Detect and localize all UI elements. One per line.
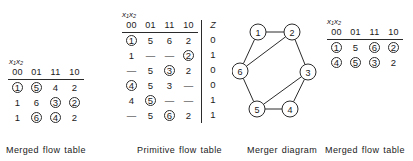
stable-state-cell: 4 <box>327 55 346 70</box>
table-row: 453— <box>122 78 198 93</box>
table-row: 1632 <box>8 95 84 110</box>
state-cell: — <box>179 78 198 93</box>
merger-nodes: 123456 <box>232 24 316 117</box>
column-header: 00 <box>8 67 27 78</box>
state-cell: 6 <box>27 95 46 110</box>
caption-primitive-flow-table: Primitive flow table <box>137 145 222 156</box>
merger-node-label-1: 1 <box>255 28 260 38</box>
stable-state-cell: 1 <box>8 80 27 95</box>
state-cell: 5 <box>141 33 160 48</box>
state-cell: 1 <box>8 110 27 125</box>
merger-edge-5-6 <box>243 78 253 101</box>
state-cell: 4 <box>46 80 65 95</box>
merger-edge-3-4 <box>293 79 304 102</box>
column-header: 11 <box>365 27 384 38</box>
state-cell: 2 <box>179 33 198 48</box>
state-cell: — <box>122 108 141 123</box>
state-cell: 2 <box>179 108 198 123</box>
table-row: 1562 <box>327 40 403 55</box>
merger-node-label-5: 5 <box>254 105 259 115</box>
output-value: 0 <box>207 62 219 77</box>
output-value: 1 <box>207 47 219 62</box>
state-cell: — <box>141 48 160 63</box>
column-header-row: 00011110 <box>8 67 84 80</box>
caption-merged-flow-table-left: Merged flow table <box>6 145 86 156</box>
column-header: 11 <box>46 67 65 78</box>
table-body: 15621——2—532453—45———562 <box>122 33 198 123</box>
table-row: —562 <box>122 108 198 123</box>
stable-state-cell: 5 <box>27 80 46 95</box>
state-cell: 2 <box>65 80 84 95</box>
stable-state-cell: 2 <box>179 48 198 63</box>
table-row: —532 <box>122 63 198 78</box>
caption-merged-flow-table-right: Merged flow table <box>325 145 405 156</box>
merged-flow-table-right: x₁x₂ 00011110 15624532 <box>327 17 403 70</box>
state-cell: 6 <box>160 33 179 48</box>
merger-edge-2-6 <box>246 37 285 66</box>
table-row: 45—— <box>122 93 198 108</box>
column-header: 10 <box>384 27 403 38</box>
state-cell: 4 <box>122 93 141 108</box>
stable-state-cell: 6 <box>365 40 384 55</box>
merger-edge-3-5 <box>263 77 301 105</box>
state-cell: 5 <box>141 108 160 123</box>
table-row: 4532 <box>327 55 403 70</box>
output-value: 1 <box>207 107 219 122</box>
stable-state-cell: 1 <box>327 40 346 55</box>
state-cell: 2 <box>384 55 403 70</box>
merger-graph-svg: 123456 <box>232 18 322 124</box>
stable-state-cell: 5 <box>346 55 365 70</box>
merged-flow-table-left: x₁x₂ 00011110 154216321642 <box>8 57 84 125</box>
stable-state-cell: 6 <box>27 110 46 125</box>
output-values: 010011 <box>207 32 219 122</box>
column-header: 11 <box>160 20 179 31</box>
column-header: 10 <box>179 20 198 31</box>
input-variable-label: x₁x₂ <box>327 17 403 26</box>
column-header: 00 <box>327 27 346 38</box>
input-variable-label: x₁x₂ <box>122 10 219 19</box>
table-row: 1542 <box>8 80 84 95</box>
column-header: 01 <box>346 27 365 38</box>
merger-edge-1-6 <box>243 39 254 63</box>
state-cell: 2 <box>179 63 198 78</box>
column-header: 01 <box>141 20 160 31</box>
stable-state-cell: 3 <box>160 63 179 78</box>
column-header-row: 00011110 <box>122 20 198 33</box>
state-cell: — <box>160 48 179 63</box>
table-body: 154216321642 <box>8 80 84 125</box>
stable-state-cell: 2 <box>384 40 403 55</box>
stable-state-cell: 4 <box>46 110 65 125</box>
primitive-table-grid: 00011110 15621——2—532453—45———562 <box>122 20 202 123</box>
column-header-row: 00011110 <box>327 27 403 40</box>
stable-state-cell: 6 <box>160 108 179 123</box>
table-row: 1562 <box>122 33 198 48</box>
table-row: 1——2 <box>122 48 198 63</box>
merger-edge-2-3 <box>295 39 305 64</box>
column-header: 01 <box>27 67 46 78</box>
column-header: 10 <box>65 67 84 78</box>
stable-state-cell: 4 <box>122 78 141 93</box>
state-cell: 1 <box>8 95 27 110</box>
state-cell: — <box>122 63 141 78</box>
output-value: 0 <box>207 32 219 47</box>
stable-state-cell: 3 <box>365 55 384 70</box>
merger-node-label-2: 2 <box>289 28 294 38</box>
state-cell: 5 <box>141 78 160 93</box>
stable-state-cell: 2 <box>65 95 84 110</box>
input-variable-label: x₁x₂ <box>9 57 84 66</box>
state-cell: 3 <box>160 78 179 93</box>
column-header: 00 <box>122 20 141 31</box>
table-body: 15624532 <box>327 40 403 70</box>
stable-state-cell: 5 <box>141 93 160 108</box>
stable-state-cell: 1 <box>122 33 141 48</box>
state-cell: — <box>179 93 198 108</box>
primitive-flow-table: x₁x₂ 00011110 15621——2—532453—45———562 Z… <box>122 10 219 123</box>
merger-node-label-6: 6 <box>237 67 242 77</box>
merger-node-label-4: 4 <box>287 105 292 115</box>
merger-node-label-3: 3 <box>305 68 310 78</box>
stable-state-cell: 3 <box>46 95 65 110</box>
caption-merger-diagram: Merger diagram <box>247 145 317 156</box>
state-cell: 5 <box>346 40 365 55</box>
merger-diagram: 123456 <box>232 18 322 128</box>
table-row: 1642 <box>8 110 84 125</box>
